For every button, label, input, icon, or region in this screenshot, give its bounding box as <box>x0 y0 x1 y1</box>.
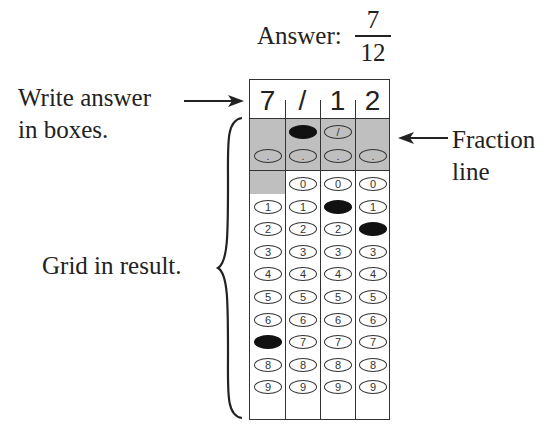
bubble-digit-1-col3[interactable] <box>324 200 352 214</box>
bubble-digit-7-col3[interactable]: 7 <box>324 335 352 349</box>
bubble-digit-5-col3[interactable]: 5 <box>324 290 352 304</box>
bubble-digit-5-col1[interactable]: 5 <box>254 290 282 304</box>
bubble-digit-2-col4[interactable] <box>359 222 387 236</box>
bubble-digit-1-col4[interactable]: 1 <box>359 200 387 214</box>
write-answer-label-line2: in boxes. <box>18 116 108 144</box>
bubble-digit-3-col1[interactable]: 3 <box>254 245 282 259</box>
answer-box-3[interactable]: 1 <box>320 80 355 118</box>
answer-box-4[interactable]: 2 <box>355 80 390 118</box>
bubble-digit-2-col1[interactable]: 2 <box>254 222 282 236</box>
bubble-digit-3-col3[interactable]: 3 <box>324 245 352 259</box>
fraction-numerator: 7 <box>355 6 391 34</box>
column-divider <box>355 100 356 420</box>
bubble-dot-col2[interactable]: . <box>289 149 317 163</box>
bubble-digit-3-col4[interactable]: 3 <box>359 245 387 259</box>
write-answer-label-line1: Write answer <box>18 84 151 112</box>
column-divider <box>285 100 286 420</box>
bubble-digit-0-col2[interactable]: 0 <box>289 177 317 191</box>
bubble-digit-3-col2[interactable]: 3 <box>289 245 317 259</box>
bubble-digit-9-col3[interactable]: 9 <box>324 380 352 394</box>
bubble-dot-col1[interactable]: . <box>254 149 282 163</box>
fraction-denominator: 12 <box>361 39 386 66</box>
bubble-digit-8-col4[interactable]: 8 <box>359 358 387 372</box>
grid-result-label: Grid in result. <box>42 252 182 280</box>
bubble-digit-0-col3[interactable]: 0 <box>324 177 352 191</box>
bubble-digit-1-col1[interactable]: 1 <box>254 200 282 214</box>
bubble-digit-4-col2[interactable]: 4 <box>289 267 317 281</box>
bubble-digit-9-col1[interactable]: 9 <box>254 380 282 394</box>
first-column-shaded-cell <box>250 170 285 194</box>
arrow-left-icon <box>398 131 450 145</box>
arrow-right-icon <box>182 94 246 108</box>
bubble-digit-2-col3[interactable]: 2 <box>324 222 352 236</box>
curly-brace-icon <box>214 114 246 422</box>
bubble-digit-2-col2[interactable]: 2 <box>289 222 317 236</box>
fraction-line-label-line1: Fraction <box>452 126 535 154</box>
bubble-digit-4-col1[interactable]: 4 <box>254 267 282 281</box>
bubble-slash-col3[interactable]: / <box>324 125 352 139</box>
bubble-digit-8-col2[interactable]: 8 <box>289 358 317 372</box>
bubble-digit-7-col1[interactable] <box>254 335 282 349</box>
bubble-digit-9-col4[interactable]: 9 <box>359 380 387 394</box>
bubble-digit-6-col3[interactable]: 6 <box>324 313 352 327</box>
bubble-slash-col2[interactable] <box>289 125 317 139</box>
fraction-bar <box>355 35 391 37</box>
bubble-digit-6-col4[interactable]: 6 <box>359 313 387 327</box>
bubble-digit-0-col4[interactable]: 0 <box>359 177 387 191</box>
bubble-digit-7-col2[interactable]: 7 <box>289 335 317 349</box>
answer-label: Answer: <box>257 22 342 50</box>
bubble-digit-9-col2[interactable]: 9 <box>289 380 317 394</box>
bubble-digit-5-col2[interactable]: 5 <box>289 290 317 304</box>
bubble-digit-4-col3[interactable]: 4 <box>324 267 352 281</box>
answer-grid: 7 / 1 2 / . . . . 0001112223333444455556… <box>249 79 390 420</box>
answer-box-2[interactable]: / <box>285 80 320 118</box>
bubble-dot-col4[interactable]: . <box>359 149 387 163</box>
bubble-digit-5-col4[interactable]: 5 <box>359 290 387 304</box>
answer-fraction: 7 12 <box>355 6 391 67</box>
bubble-digit-6-col2[interactable]: 6 <box>289 313 317 327</box>
bubble-digit-4-col4[interactable]: 4 <box>359 267 387 281</box>
bubble-digit-8-col1[interactable]: 8 <box>254 358 282 372</box>
column-divider <box>320 100 321 420</box>
bubble-digit-8-col3[interactable]: 8 <box>324 358 352 372</box>
answer-box-1[interactable]: 7 <box>250 80 285 118</box>
bubble-digit-1-col2[interactable]: 1 <box>289 200 317 214</box>
fraction-line-label-line2: line <box>452 158 490 186</box>
bubble-dot-col3[interactable]: . <box>324 149 352 163</box>
bubble-digit-6-col1[interactable]: 6 <box>254 313 282 327</box>
bubble-digit-7-col4[interactable]: 7 <box>359 335 387 349</box>
